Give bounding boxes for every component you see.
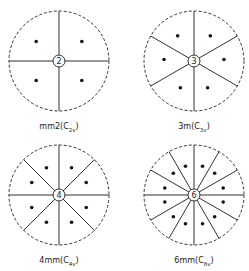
pole-point (80, 40, 84, 44)
pole-point (70, 220, 74, 224)
pole-point (45, 166, 49, 170)
pole-point (84, 181, 88, 185)
label-3m: 3m(C3v) (149, 122, 239, 133)
label-6mm: 6mm(C6v) (149, 256, 239, 267)
pole-point (221, 200, 225, 204)
label-4mm: 4mm(C4v) (14, 256, 104, 267)
pole-point (30, 181, 34, 185)
pole-point (172, 215, 176, 219)
pole-point (184, 164, 188, 168)
pole-point (201, 222, 205, 226)
pole-point (163, 200, 167, 204)
axis-order-label: 2 (56, 57, 61, 66)
pole-point (80, 79, 84, 83)
pole-point (201, 164, 205, 168)
pole-point (162, 58, 166, 62)
pole-point (84, 206, 88, 210)
pole-point (172, 171, 176, 175)
stereogram-diagram: 2346 (0, 0, 249, 271)
pole-point (70, 166, 74, 170)
pole-point (34, 40, 38, 44)
pole-point (213, 215, 217, 219)
pole-point (209, 34, 213, 38)
axis-order-label: 4 (56, 191, 61, 200)
pole-point (45, 220, 49, 224)
pole-point (221, 186, 225, 190)
axis-order-label: 6 (191, 191, 196, 200)
pole-point (30, 206, 34, 210)
pole-point (34, 79, 38, 83)
pole-point (184, 222, 188, 226)
pole-point (176, 34, 180, 38)
label-mm2: mm2(C2v) (14, 122, 104, 133)
pole-point (222, 58, 226, 62)
pole-point (206, 86, 210, 90)
pole-point (179, 86, 183, 90)
pole-point (213, 171, 217, 175)
axis-order-label: 3 (191, 57, 196, 66)
pole-point (163, 186, 167, 190)
